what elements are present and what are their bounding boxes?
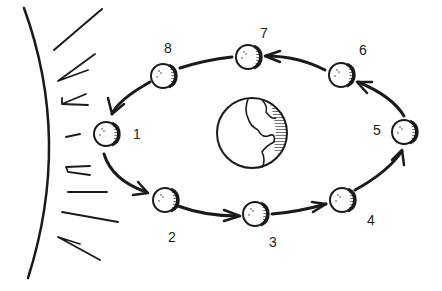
moon-8: [151, 64, 178, 88]
moon-2: [153, 188, 180, 212]
moon-6: [329, 63, 356, 87]
moon-3: [243, 202, 270, 226]
moon-phases-diagram: 12345678: [0, 0, 442, 291]
moon-7: [236, 45, 263, 69]
moon-label-4: 4: [367, 212, 375, 228]
moon-label-6: 6: [359, 42, 367, 58]
moon-label-5: 5: [373, 122, 381, 138]
earth: [217, 98, 297, 168]
moon-label-8: 8: [164, 40, 172, 56]
moon-label-2: 2: [168, 229, 176, 245]
moon-1: [94, 122, 121, 146]
moon-label-1: 1: [133, 126, 141, 142]
moon-label-3: 3: [269, 234, 277, 250]
moon-4: [330, 188, 357, 212]
moon-5: [392, 120, 419, 144]
moon-label-7: 7: [260, 25, 268, 41]
diagram-canvas: [0, 0, 442, 291]
